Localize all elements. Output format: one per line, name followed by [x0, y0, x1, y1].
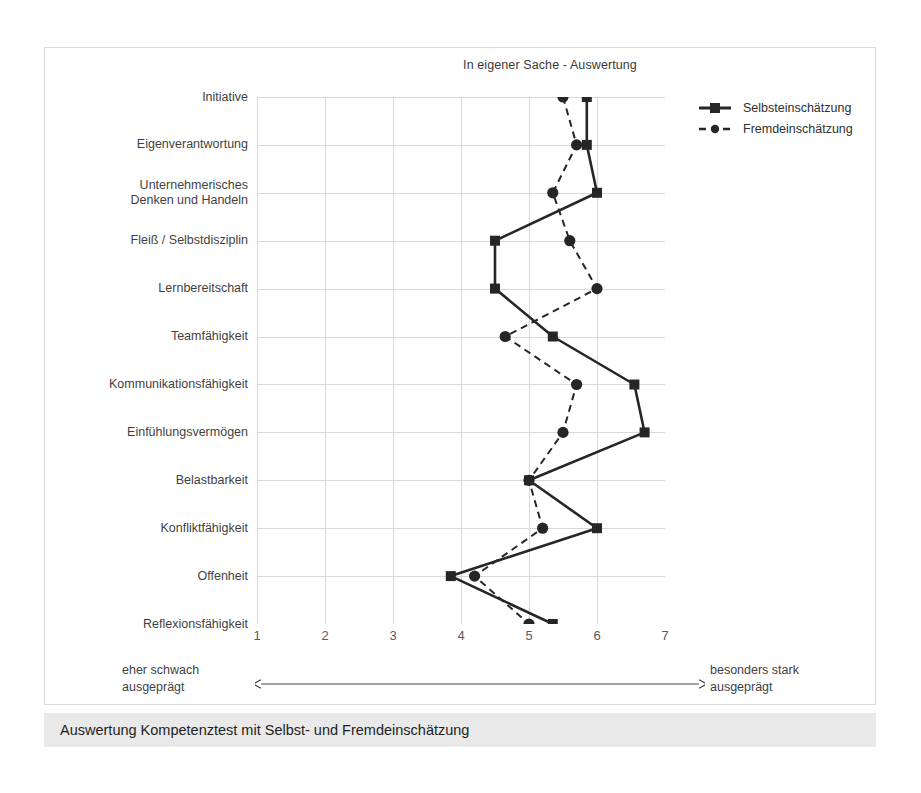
data-point-square: [629, 380, 639, 390]
data-point-circle: [537, 523, 548, 534]
scale-double-arrow-icon: [255, 676, 705, 692]
y-axis-label: Fleiß / Selbstdisziplin: [60, 233, 248, 248]
data-point-circle: [571, 379, 582, 390]
data-point-circle: [571, 139, 582, 150]
scale-annotation: eher schwach ausgeprägt besonders stark …: [60, 662, 860, 706]
y-axis-label: Initiative: [60, 90, 248, 105]
y-axis-label: Konfliktfähigkeit: [60, 521, 248, 536]
x-axis-tick-label: 3: [378, 628, 408, 643]
scale-label-strong: besonders stark ausgeprägt: [710, 662, 870, 696]
y-axis-label: Belastbarkeit: [60, 473, 248, 488]
figure-page: In eigener Sache - Auswertung Initiative…: [0, 0, 921, 793]
data-point-circle: [591, 283, 602, 294]
data-point-circle: [500, 331, 511, 342]
legend-marker-circle-icon: [697, 122, 733, 136]
data-point-circle: [557, 427, 568, 438]
scale-label-weak: eher schwach ausgeprägt: [122, 662, 272, 696]
y-axis-label: Reflexionsfähigkeit: [60, 617, 248, 632]
legend-marker-square-icon: [697, 101, 733, 115]
data-point-circle: [523, 618, 534, 624]
data-point-square: [490, 284, 500, 294]
data-point-circle: [547, 187, 558, 198]
x-axis-tick-label: 6: [582, 628, 612, 643]
caption-bar: Auswertung Kompetenztest mit Selbst- und…: [44, 713, 876, 747]
data-point-square: [446, 571, 456, 581]
x-axis-tick-labels: 1234567: [257, 628, 665, 650]
data-point-circle: [469, 571, 480, 582]
x-axis-tick-label: 4: [446, 628, 476, 643]
gridlines: [257, 97, 665, 624]
data-point-square: [640, 427, 650, 437]
data-point-circle: [523, 475, 534, 486]
data-point-square: [490, 236, 500, 246]
x-axis-tick-label: 1: [242, 628, 272, 643]
legend-item[interactable]: Selbsteinschätzung: [697, 97, 877, 118]
y-axis-label: Lernbereitschaft: [60, 281, 248, 296]
legend-label: Fremdeinschätzung: [743, 122, 853, 136]
data-point-square: [548, 619, 558, 624]
series-1: [446, 97, 650, 624]
legend-label: Selbsteinschätzung: [743, 101, 851, 115]
y-axis-label: Einfühlungsvermögen: [60, 425, 248, 440]
x-axis-tick-label: 7: [650, 628, 680, 643]
caption-text: Auswertung Kompetenztest mit Selbst- und…: [44, 722, 469, 738]
chart-legend: SelbsteinschätzungFremdeinschätzung: [697, 97, 877, 139]
y-axis-label: Unternehmerisches Denken und Handeln: [60, 178, 248, 208]
series-line: [451, 97, 645, 624]
y-axis-label: Kommunikationsfähigkeit: [60, 377, 248, 392]
data-point-square: [592, 188, 602, 198]
y-axis-label: Offenheit: [60, 569, 248, 584]
data-point-circle: [564, 235, 575, 246]
x-axis-tick-label: 5: [514, 628, 544, 643]
plot-area: [257, 97, 665, 624]
data-series-layer: [446, 97, 650, 624]
chart-title: In eigener Sache - Auswertung: [380, 58, 720, 72]
data-point-circle: [557, 97, 568, 103]
data-point-square: [582, 140, 592, 150]
y-axis-label: Eigenverantwortung: [60, 137, 248, 152]
legend-item[interactable]: Fremdeinschätzung: [697, 118, 877, 139]
series-2: [469, 97, 603, 624]
data-point-square: [548, 332, 558, 342]
y-axis-label: Teamfähigkeit: [60, 329, 248, 344]
chart-svg: [257, 97, 665, 624]
data-point-square: [582, 97, 592, 102]
series-line: [475, 97, 597, 624]
y-axis-labels: InitiativeEigenverantwortungUnternehmeri…: [60, 80, 248, 640]
x-axis-tick-label: 2: [310, 628, 340, 643]
data-point-square: [592, 523, 602, 533]
